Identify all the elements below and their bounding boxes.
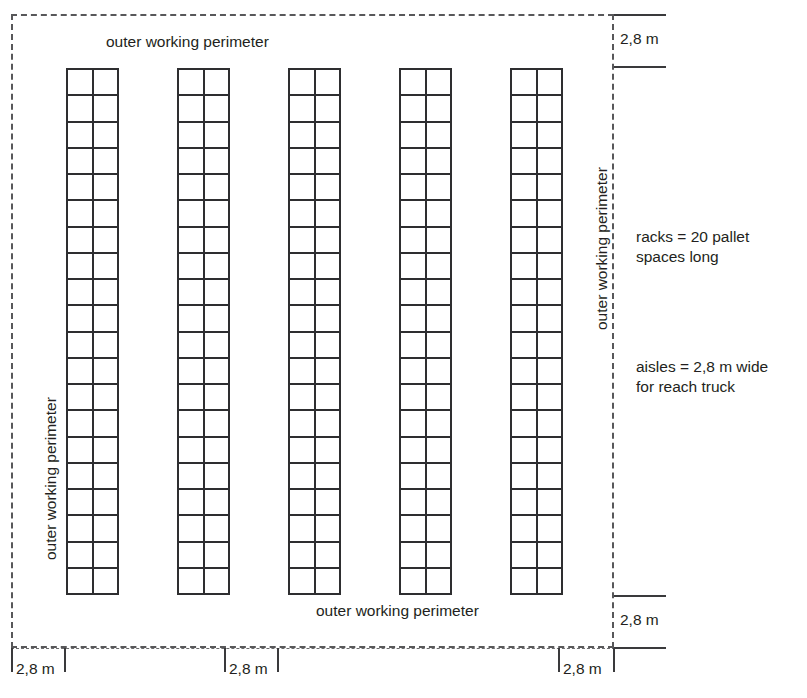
pallet-space — [538, 411, 562, 435]
pallet-space — [427, 228, 451, 252]
pallet-space — [316, 201, 340, 225]
pallet-space — [427, 543, 451, 567]
pallet-space — [179, 464, 203, 488]
pallet-space — [401, 490, 425, 514]
pallet-space — [316, 280, 340, 304]
pallet-space — [538, 175, 562, 199]
pallet-space — [94, 438, 118, 462]
pallet-space — [179, 411, 203, 435]
pallet-space — [512, 306, 536, 330]
pallet-space — [538, 490, 562, 514]
pallet-space — [538, 516, 562, 540]
pallet-space — [538, 333, 562, 357]
pallet-space — [68, 175, 92, 199]
pallet-space — [290, 280, 314, 304]
pallet-space — [538, 569, 562, 593]
pallet-space — [401, 385, 425, 409]
pallet-space — [512, 201, 536, 225]
pallet-space — [94, 385, 118, 409]
pallet-space — [316, 254, 340, 278]
pallet-space — [538, 96, 562, 120]
pallet-space — [316, 569, 340, 593]
pallet-space — [512, 569, 536, 593]
pallet-space — [68, 490, 92, 514]
pallet-space — [290, 70, 314, 94]
pallet-space — [316, 228, 340, 252]
pallet-space — [205, 149, 229, 173]
pallet-space — [512, 464, 536, 488]
pallet-space — [68, 228, 92, 252]
pallet-space — [316, 411, 340, 435]
pallet-space — [94, 254, 118, 278]
pallet-space — [401, 411, 425, 435]
pallet-space — [401, 96, 425, 120]
pallet-space — [427, 490, 451, 514]
pallet-space — [179, 70, 203, 94]
dim-label-bottom-left: 2,8 m — [16, 660, 55, 678]
pallet-space — [94, 490, 118, 514]
pallet-space — [538, 149, 562, 173]
pallet-space — [68, 385, 92, 409]
pallet-space — [512, 543, 536, 567]
pallet-space — [290, 569, 314, 593]
pallet-space — [316, 149, 340, 173]
pallet-space — [68, 96, 92, 120]
pallet-space — [68, 359, 92, 383]
pallet-space — [401, 333, 425, 357]
pallet-space — [316, 175, 340, 199]
pallet-space — [401, 228, 425, 252]
pallet-space — [512, 175, 536, 199]
pallet-space — [68, 411, 92, 435]
dim-bottom-right-inner-tick-start — [558, 648, 560, 672]
label-perimeter-top: outer working perimeter — [106, 32, 269, 52]
pallet-space — [512, 490, 536, 514]
pallet-space — [427, 333, 451, 357]
pallet-space — [538, 228, 562, 252]
pallet-space — [205, 464, 229, 488]
pallet-space — [427, 96, 451, 120]
pallet-space — [427, 254, 451, 278]
pallet-space — [205, 175, 229, 199]
pallet-space — [94, 201, 118, 225]
pallet-space — [205, 516, 229, 540]
pallet-space — [290, 359, 314, 383]
pallet-space — [316, 543, 340, 567]
pallet-space — [290, 543, 314, 567]
pallet-space — [94, 306, 118, 330]
pallet-space — [205, 280, 229, 304]
dim-label-bottom-middle: 2,8 m — [229, 660, 268, 678]
pallet-space — [538, 543, 562, 567]
pallet-space — [538, 306, 562, 330]
pallet-space — [401, 543, 425, 567]
pallet-space — [401, 306, 425, 330]
pallet-space — [290, 228, 314, 252]
pallet-space — [512, 333, 536, 357]
pallet-space — [427, 306, 451, 330]
pallet-space — [512, 149, 536, 173]
pallet-space — [205, 333, 229, 357]
pallet-space — [179, 438, 203, 462]
pallet-space — [538, 280, 562, 304]
pallet-space — [427, 175, 451, 199]
pallet-space — [94, 149, 118, 173]
pallet-space — [401, 280, 425, 304]
pallet-space — [94, 123, 118, 147]
pallet-space — [512, 438, 536, 462]
pallet-space — [316, 359, 340, 383]
pallet-space — [316, 438, 340, 462]
pallet-space — [290, 411, 314, 435]
pallet-space — [427, 280, 451, 304]
pallet-space — [316, 490, 340, 514]
pallet-space — [290, 201, 314, 225]
pallet-space — [179, 201, 203, 225]
pallet-space — [68, 254, 92, 278]
pallet-space — [179, 385, 203, 409]
pallet-rack — [288, 68, 341, 595]
pallet-space — [179, 569, 203, 593]
pallet-space — [68, 464, 92, 488]
pallet-space — [68, 149, 92, 173]
pallet-space — [205, 70, 229, 94]
pallet-space — [512, 96, 536, 120]
pallet-space — [512, 516, 536, 540]
pallet-space — [401, 464, 425, 488]
